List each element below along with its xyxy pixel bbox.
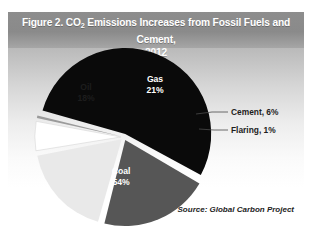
pie-slices [35, 48, 211, 226]
slice-label-gas-value: 21% [146, 85, 164, 95]
source-note: Source: Global Carbon Project [178, 205, 294, 214]
slice-label-oil-name: Oil [80, 82, 91, 92]
slice-label-coal-value: 54% [112, 177, 130, 187]
slice-label-cement: Cement, 6% [231, 107, 279, 117]
slice-label-gas-name: Gas [147, 74, 163, 84]
slice-label-flaring: Flaring, 1% [231, 125, 276, 135]
pie-chart-svg: Gas 21% Oil 18% Coal 54% Cement, 6% Flar… [0, 0, 312, 236]
figure-container: Figure 2. CO2 Emissions Increases from F… [0, 0, 312, 236]
slice-label-oil-value: 18% [77, 93, 95, 103]
slice-label-coal-name: Coal [112, 166, 131, 176]
pie-chart: Gas 21% Oil 18% Coal 54% Cement, 6% Flar… [0, 0, 312, 236]
